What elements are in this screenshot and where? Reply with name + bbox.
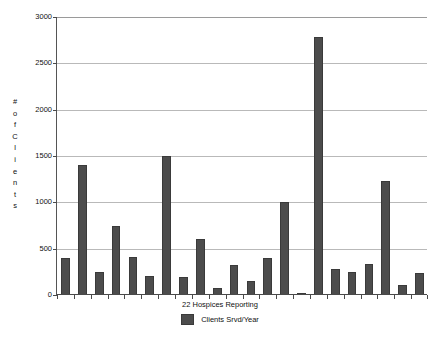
legend-swatch-clients-srvd-year — [181, 314, 194, 325]
bar-chart: #ofClients 050010001500200025003000 22 H… — [0, 0, 440, 345]
bar — [280, 202, 289, 295]
gridline-2000 — [57, 110, 427, 111]
x-axis-tick-2 — [91, 295, 92, 299]
x-axis-tick-20 — [394, 295, 395, 299]
y-tick-label-2000: 2000 — [18, 106, 52, 114]
y-tick-label-1500: 1500 — [18, 152, 52, 160]
x-axis-tick-16 — [327, 295, 328, 299]
bar — [348, 272, 357, 295]
bar — [129, 257, 138, 295]
x-axis-tick-10 — [226, 295, 227, 299]
bar — [415, 273, 424, 295]
y-tick-label-2500: 2500 — [18, 59, 52, 67]
x-axis-tick-11 — [243, 295, 244, 299]
x-axis-tick-end — [427, 295, 428, 299]
y-tick-label-0: 0 — [18, 291, 52, 299]
bar — [365, 264, 374, 296]
x-axis-tick-12 — [259, 295, 260, 299]
bar — [61, 258, 70, 295]
x-axis-tick-19 — [377, 295, 378, 299]
bar — [196, 239, 205, 295]
bar — [112, 226, 121, 296]
y-tick-label-500: 500 — [18, 245, 52, 253]
x-axis-tick-7 — [175, 295, 176, 299]
y-tick-label-3000: 3000 — [18, 13, 52, 21]
bar — [263, 258, 272, 295]
x-axis-tick-14 — [293, 295, 294, 299]
x-axis-tick-3 — [108, 295, 109, 299]
x-axis-title: 22 Hospices Reporting — [0, 300, 440, 309]
y-axis-tick-500 — [53, 249, 57, 250]
y-axis-tick-1000 — [53, 202, 57, 203]
gridline-3000 — [57, 17, 427, 18]
y-axis-tick-2500 — [53, 63, 57, 64]
bar — [331, 269, 340, 295]
plot-area — [56, 17, 427, 295]
bar — [162, 156, 171, 295]
y-tick-label-1000: 1000 — [18, 198, 52, 206]
x-axis-tick-18 — [361, 295, 362, 299]
x-axis-tick-9 — [209, 295, 210, 299]
y-axis-tick-labels: 050010001500200025003000 — [16, 0, 52, 345]
x-axis-tick-6 — [158, 295, 159, 299]
x-axis-tick-8 — [192, 295, 193, 299]
x-axis-line — [57, 294, 427, 295]
bar — [314, 37, 323, 295]
x-axis-tick-4 — [124, 295, 125, 299]
plot-inner — [57, 17, 427, 295]
chart-legend: Clients Srvd/Year — [0, 314, 440, 325]
x-axis-tick-1 — [74, 295, 75, 299]
y-axis-tick-1500 — [53, 156, 57, 157]
gridline-1500 — [57, 156, 427, 157]
x-axis-tick-13 — [276, 295, 277, 299]
x-axis-tick-21 — [411, 295, 412, 299]
x-axis-tick-0 — [57, 295, 58, 299]
gridline-2500 — [57, 63, 427, 64]
bar — [95, 272, 104, 295]
bar — [145, 276, 154, 295]
x-axis-tick-15 — [310, 295, 311, 299]
bar — [78, 165, 87, 295]
y-axis-tick-3000 — [53, 17, 57, 18]
legend-label-clients-srvd-year: Clients Srvd/Year — [201, 315, 259, 324]
bar — [230, 265, 239, 295]
bar — [179, 277, 188, 295]
y-axis-tick-2000 — [53, 110, 57, 111]
x-axis-tick-5 — [141, 295, 142, 299]
x-axis-tick-17 — [344, 295, 345, 299]
bar — [381, 181, 390, 295]
gridline-1000 — [57, 202, 427, 203]
